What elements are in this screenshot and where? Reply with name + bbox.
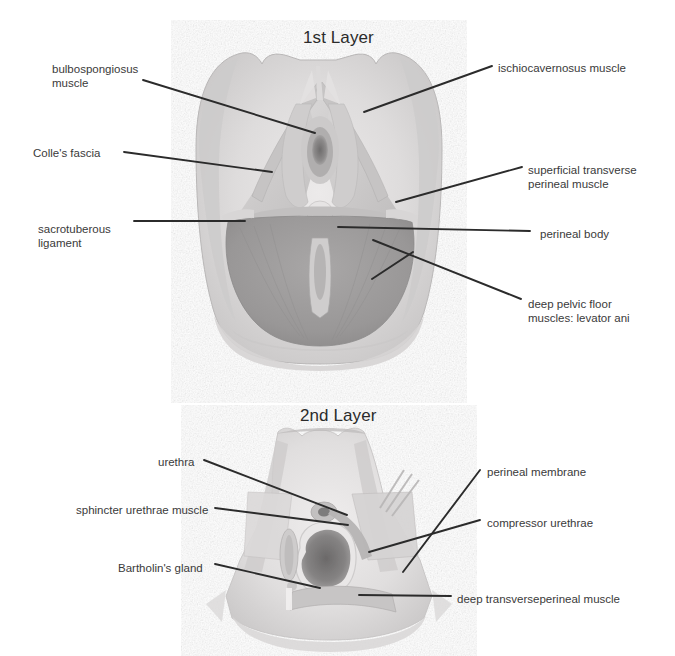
label-compressor-urethrae: compressor urethrae: [487, 516, 622, 530]
label-urethra: urethra: [158, 455, 218, 469]
anatomical-artwork: [0, 0, 675, 656]
diagram-page: 1st Layer 2nd Layer bulbospongiosus musc…: [0, 0, 675, 656]
label-deep-pelvic-floor-muscles-levator-ani: deep pelvic floor muscles: levator ani: [528, 297, 668, 325]
label-superficial-transverse-perineal-muscle: superficial transverse perineal muscle: [528, 163, 668, 191]
label-colles-fascia: Colle's fascia: [33, 146, 123, 160]
label-perineal-body: perineal body: [540, 227, 660, 241]
second-layer-title: 2nd Layer: [300, 406, 377, 426]
label-bulbospongiosus-muscle: bulbospongiosus muscle: [52, 62, 148, 90]
first-layer-illustration: [196, 53, 442, 371]
label-bartholins-gland: Bartholin's gland: [118, 561, 218, 575]
label-deep-transverseperineal-muscle: deep transverseperineal muscle: [457, 592, 672, 606]
label-sacrotuberous-ligament: sacrotuberous ligament: [38, 222, 130, 250]
first-layer-title: 1st Layer: [303, 28, 374, 48]
label-perineal-membrane: perineal membrane: [487, 465, 617, 479]
label-sphincter-urethrae-muscle: sphincter urethrae muscle: [76, 503, 216, 517]
second-layer-illustration: [206, 428, 452, 652]
label-ischiocavernosus-muscle: ischiocavernosus muscle: [498, 61, 658, 75]
